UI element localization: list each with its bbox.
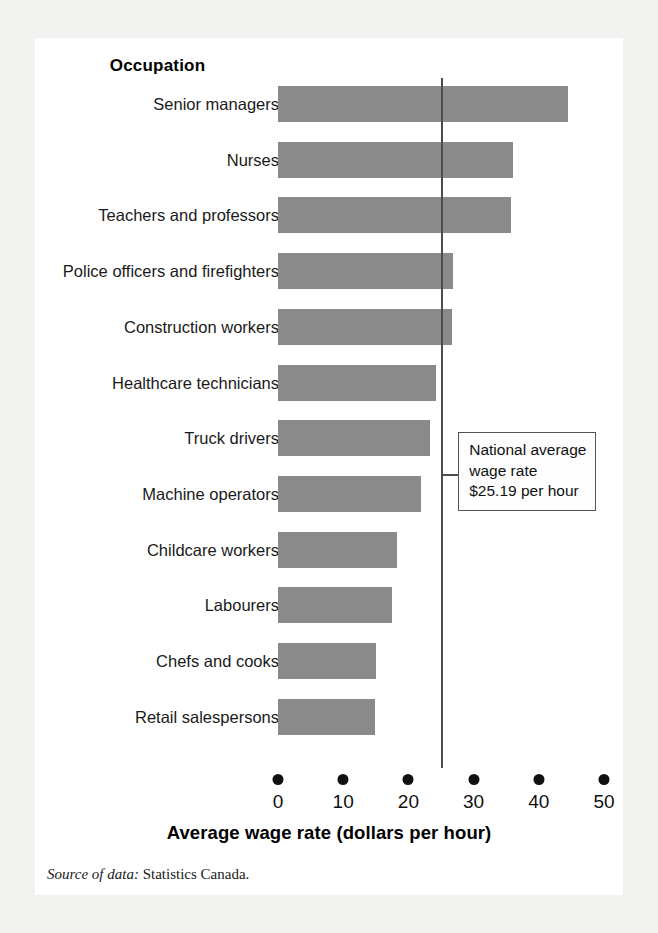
bar <box>278 699 375 735</box>
x-axis-tick-dot <box>533 774 544 785</box>
x-axis-tick-label: 30 <box>463 791 484 813</box>
bar-category-label: Nurses <box>227 150 279 169</box>
bar-category-label: Senior managers <box>153 95 279 114</box>
bar-category-label: Construction workers <box>124 317 279 336</box>
bar <box>278 86 568 122</box>
bar <box>278 253 453 289</box>
occupation-column-header: Occupation <box>35 56 280 76</box>
x-axis-tick-label: 0 <box>273 791 284 813</box>
bar <box>278 197 511 233</box>
bar <box>278 643 376 679</box>
bar <box>278 587 392 623</box>
bar-category-label: Truck drivers <box>184 429 279 448</box>
national-average-reference-line <box>441 78 443 768</box>
bar <box>278 365 436 401</box>
x-axis-tick-label: 50 <box>593 791 614 813</box>
bar-category-label: Chefs and cooks <box>156 652 279 671</box>
annotation-line-2: wage rate <box>469 461 586 482</box>
bar-row: Labourers <box>35 585 623 625</box>
bar-row: Retail salespersons <box>35 697 623 737</box>
bar-category-label: Machine operators <box>142 484 279 503</box>
source-value: Statistics Canada. <box>139 866 249 882</box>
bar <box>278 420 430 456</box>
bar-row: Construction workers <box>35 307 623 347</box>
bar-row: Police officers and firefighters <box>35 251 623 291</box>
x-axis-tick-label: 20 <box>398 791 419 813</box>
bar-chart: Occupation Senior managersNursesTeachers… <box>35 38 623 895</box>
x-axis-tick-dot <box>273 774 284 785</box>
bar-category-label: Labourers <box>205 596 279 615</box>
bar <box>278 532 397 568</box>
bar-row: Chefs and cooks <box>35 641 623 681</box>
x-axis-tick-label: 40 <box>528 791 549 813</box>
bar-row: Teachers and professors <box>35 195 623 235</box>
x-axis-tick-dot <box>403 774 414 785</box>
bar-category-label: Retail salespersons <box>135 707 279 726</box>
annotation-line-3: $25.19 per hour <box>469 481 586 502</box>
national-average-annotation: National average wage rate $25.19 per ho… <box>458 432 596 511</box>
bar-category-label: Healthcare technicians <box>112 373 279 392</box>
bar-row: Healthcare technicians <box>35 363 623 403</box>
bar <box>278 309 452 345</box>
bar-category-label: Childcare workers <box>147 540 279 559</box>
bar-category-label: Teachers and professors <box>98 206 279 225</box>
bar-row: Childcare workers <box>35 530 623 570</box>
x-axis-tick-dot <box>468 774 479 785</box>
source-note: Source of data: Statistics Canada. <box>47 866 249 883</box>
x-axis-tick-dot <box>338 774 349 785</box>
annotation-line-1: National average <box>469 440 586 461</box>
bar <box>278 142 513 178</box>
bar-row: Nurses <box>35 140 623 180</box>
x-axis-title: Average wage rate (dollars per hour) <box>35 822 623 844</box>
source-label: Source of data: <box>47 866 139 882</box>
annotation-connector-line <box>442 474 458 476</box>
bar <box>278 476 421 512</box>
figure-card: Occupation Senior managersNursesTeachers… <box>35 38 623 895</box>
bar-row: Senior managers <box>35 84 623 124</box>
bar-category-label: Police officers and firefighters <box>63 262 279 281</box>
x-axis-tick-label: 10 <box>333 791 354 813</box>
x-axis-tick-dot <box>599 774 610 785</box>
